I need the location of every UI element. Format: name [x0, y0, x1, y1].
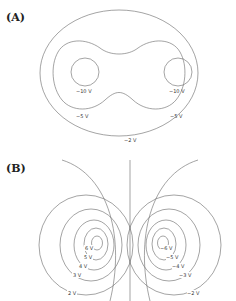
contour-minus-10v-right	[164, 58, 192, 86]
panel-a-label: (A)	[6, 11, 25, 24]
equipotential-figure: (A) −10 V −10 V −5 V −5 V −2 V (B) 6 V	[0, 0, 236, 301]
label-2v: 2 V	[68, 290, 77, 296]
contour-minus-5v	[53, 41, 185, 109]
panel-b: (B) 6 V 5 V 4 V 3 V 2 V −6 V −5 V	[6, 160, 221, 301]
label-minus-5v-right: −5 V	[170, 113, 183, 119]
label-4v: 4 V	[79, 263, 88, 269]
label-minus-5v: −5 V	[166, 254, 179, 260]
label-minus-4v: −4 V	[172, 263, 185, 269]
contour-left-outer-arc	[62, 160, 116, 301]
label-minus-6v: −6 V	[160, 245, 173, 251]
label-6v: 6 V	[85, 245, 94, 251]
label-minus-2v: −2 V	[124, 137, 137, 143]
label-minus-10v-left: −10 V	[76, 88, 92, 94]
label-5v: 5 V	[84, 254, 93, 260]
panel-b-label: (B)	[6, 162, 26, 175]
contour-minus-10v-left	[71, 58, 99, 86]
contour-right-outer-arc	[144, 160, 198, 301]
label-3v: 3 V	[73, 272, 82, 278]
label-minus-10v-right: −10 V	[169, 88, 185, 94]
contour-right-minus-2v	[127, 195, 221, 295]
label-minus-5v-left: −5 V	[76, 113, 89, 119]
label-minus-2v-b: −2 V	[187, 290, 200, 296]
label-minus-3v: −3 V	[179, 272, 192, 278]
panel-a: (A) −10 V −10 V −5 V −5 V −2 V	[6, 10, 198, 143]
